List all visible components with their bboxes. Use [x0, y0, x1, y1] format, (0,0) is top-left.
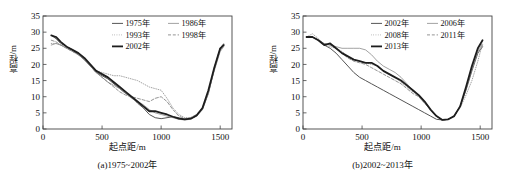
x-tick-label: 500: [95, 132, 109, 140]
x-tick-label: 1500: [471, 132, 490, 140]
y-tick-label: 5: [36, 108, 41, 118]
legend-label: 1998年: [182, 30, 206, 40]
x-axis-title-a: 起点距/m: [0, 140, 255, 153]
x-tick-label: 1500: [211, 132, 230, 140]
legend-label: 1993年: [126, 30, 150, 40]
panel-b: 05101520253035 050010001500 2002年2006年20…: [255, 0, 510, 185]
chart-a: 05101520253035 050010001500 1975年1986年19…: [0, 0, 255, 140]
figure-two-panel-cross-sections: 05101520253035 050010001500 1975年1986年19…: [0, 0, 510, 185]
x-tick-label: 500: [355, 132, 369, 140]
legend-label: 2013年: [385, 41, 409, 51]
legend-label: 2006年: [441, 18, 465, 28]
x-axis-ticks-b: 050010001500: [301, 126, 490, 141]
series-line: [51, 43, 223, 120]
y-tick-label: 30: [31, 27, 41, 37]
y-tick-label: 0: [296, 124, 301, 134]
y-tick-label: 25: [291, 43, 301, 53]
y-tick-label: 20: [31, 60, 41, 70]
y-tick-label: 35: [291, 11, 301, 21]
legend-a: 1975年1986年1993年1998年2002年: [112, 18, 206, 51]
y-tick-label: 15: [31, 76, 41, 86]
y-tick-label: 0: [36, 124, 41, 134]
y-axis-title-a: 高程/m: [6, 45, 19, 73]
y-tick-label: 10: [31, 92, 41, 102]
legend-label: 2011年: [441, 30, 465, 40]
x-tick-label: 1000: [412, 132, 431, 140]
y-tick-label: 25: [31, 43, 41, 53]
panel-a: 05101520253035 050010001500 1975年1986年19…: [0, 0, 255, 185]
x-axis-title-b: 起点距/m: [255, 140, 510, 153]
y-tick-label: 20: [291, 60, 301, 70]
x-axis-ticks-a: 050010001500: [41, 126, 230, 141]
y-axis-ticks-b: 05101520253035: [291, 11, 307, 134]
y-axis-ticks-a: 05101520253035: [31, 11, 47, 134]
y-axis-title-b: 高程/m: [266, 45, 279, 73]
chart-b: 05101520253035 050010001500 2002年2006年20…: [255, 0, 510, 140]
legend-label: 1975年: [126, 18, 150, 28]
y-tick-label: 10: [291, 92, 301, 102]
panel-caption-a: (a)1975~2002年: [0, 158, 255, 171]
legend-label: 1986年: [182, 18, 206, 28]
legend-label: 2008年: [385, 30, 409, 40]
x-tick-label: 0: [301, 132, 306, 140]
legend-label: 2002年: [385, 18, 409, 28]
y-tick-label: 30: [291, 27, 301, 37]
y-tick-label: 5: [296, 108, 301, 118]
panel-caption-b: (b)2002~2013年: [255, 158, 510, 171]
legend-b: 2002年2006年2008年2011年2013年: [371, 18, 465, 51]
y-tick-label: 15: [291, 76, 301, 86]
legend-label: 2002年: [126, 41, 150, 51]
y-tick-label: 35: [31, 11, 41, 21]
x-tick-label: 1000: [152, 132, 171, 140]
series-line: [51, 43, 223, 117]
x-tick-label: 0: [41, 132, 46, 140]
